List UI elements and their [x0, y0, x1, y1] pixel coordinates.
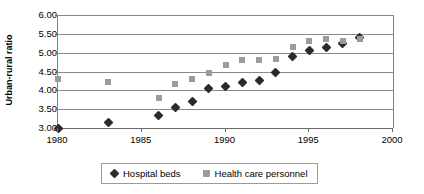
data-point: [156, 95, 162, 101]
x-tick-label: 1980: [37, 134, 77, 145]
data-point: [237, 77, 247, 87]
data-point: [340, 38, 346, 44]
plot-area: [57, 15, 394, 128]
data-point: [189, 76, 195, 82]
gridline: [58, 53, 393, 54]
data-point: [338, 38, 348, 48]
data-point: [254, 76, 264, 86]
x-tick-mark: [141, 128, 142, 132]
x-tick-label: 1990: [205, 134, 245, 145]
data-point: [172, 81, 178, 87]
y-axis-title-label: Urban-rural ratio: [3, 34, 13, 105]
data-point: [256, 57, 262, 63]
y-axis-title: Urban-rural ratio: [0, 0, 16, 140]
data-point: [271, 68, 281, 78]
gridline: [58, 15, 393, 16]
legend-entry-hospital-beds: Hospital beds: [111, 168, 181, 179]
x-axis-ticks: 19801985199019952000: [0, 128, 424, 152]
data-point: [306, 38, 312, 44]
legend-entry-health-care-personnel: Health care personnel: [203, 168, 308, 179]
gridline: [58, 72, 393, 73]
data-point: [187, 97, 197, 107]
y-tick-label: 4.50: [23, 67, 57, 77]
x-tick-label: 2000: [372, 134, 412, 145]
x-tick-mark: [57, 128, 58, 132]
x-tick-mark: [308, 128, 309, 132]
data-point: [323, 36, 329, 42]
gridline: [58, 90, 393, 91]
legend-label: Hospital beds: [123, 168, 181, 179]
data-point: [204, 83, 214, 93]
chart-container: Urban-rural ratio 3.003.504.004.505.005.…: [0, 0, 424, 194]
y-axis-ticks: 3.003.504.004.505.005.506.00: [17, 0, 57, 140]
x-tick-mark: [225, 128, 226, 132]
y-tick-label: 6.00: [23, 10, 57, 20]
data-point: [105, 79, 111, 85]
data-point: [290, 44, 296, 50]
diamond-marker-icon: [110, 169, 120, 179]
x-tick-mark: [392, 128, 393, 132]
gridline: [58, 34, 393, 35]
data-point: [154, 111, 164, 121]
y-tick-label: 3.50: [23, 104, 57, 114]
chart-legend: Hospital beds Health care personnel: [101, 163, 318, 184]
x-tick-label: 1995: [288, 134, 328, 145]
y-tick-label: 5.00: [23, 48, 57, 58]
data-point: [239, 57, 245, 63]
data-point: [223, 62, 229, 68]
data-point: [321, 42, 331, 52]
gridline: [58, 109, 393, 110]
y-tick-label: 5.50: [23, 29, 57, 39]
legend-label: Health care personnel: [215, 168, 308, 179]
y-tick-label: 4.00: [23, 85, 57, 95]
data-point: [273, 56, 279, 62]
data-point: [103, 117, 113, 127]
data-point: [357, 36, 363, 42]
square-marker-icon: [203, 170, 210, 177]
data-point: [170, 102, 180, 112]
x-tick-label: 1985: [121, 134, 161, 145]
data-point: [304, 46, 314, 56]
